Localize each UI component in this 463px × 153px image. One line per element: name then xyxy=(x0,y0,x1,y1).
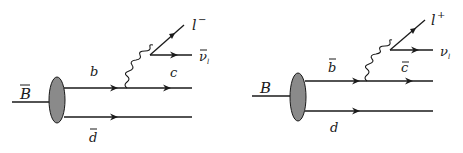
label-lepton: l + xyxy=(431,9,445,28)
svg-text:l: l xyxy=(207,58,209,66)
meson-blob xyxy=(49,77,65,123)
meson-blob xyxy=(290,73,306,121)
label-spectator: d xyxy=(330,120,338,135)
label-spectator: d xyxy=(89,129,97,145)
svg-text:B: B xyxy=(19,85,31,103)
svg-text:l: l xyxy=(448,53,450,61)
svg-text:ν: ν xyxy=(440,44,448,59)
label-b-bar: b xyxy=(328,59,336,75)
label-neutrino: ν l xyxy=(199,49,209,66)
label-c: c xyxy=(170,65,178,80)
svg-text:+: + xyxy=(437,9,445,20)
svg-text:ν: ν xyxy=(199,49,207,64)
label-c-bar: c xyxy=(401,60,409,75)
label-lepton: l − xyxy=(192,14,206,33)
lepton-line xyxy=(150,25,184,55)
svg-text:l: l xyxy=(431,12,435,28)
label-neutrino: ν l xyxy=(440,44,450,61)
label-meson: B xyxy=(19,85,31,103)
w-boson-line xyxy=(125,45,153,88)
arrow-icon xyxy=(410,28,416,34)
feynman-diagrams: B b c l − ν l d B xyxy=(0,0,463,153)
w-boson-line xyxy=(365,40,392,81)
label-b: b xyxy=(90,64,98,79)
svg-text:d: d xyxy=(89,130,97,145)
diagram-bbar: B b c l − ν l d xyxy=(12,14,209,145)
svg-text:b: b xyxy=(328,60,336,75)
svg-text:−: − xyxy=(198,14,206,25)
diagram-b: B b c l + ν l d xyxy=(252,9,450,135)
label-meson: B xyxy=(259,79,271,97)
lepton-line xyxy=(390,20,425,50)
svg-text:l: l xyxy=(192,17,196,33)
